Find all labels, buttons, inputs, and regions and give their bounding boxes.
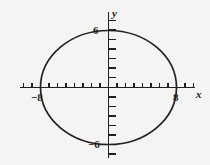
y-axis-tick-label-negative-6: −6 — [88, 139, 100, 150]
ellipse-graph-figure: −8 8 6 −6 x y — [0, 0, 210, 165]
x-axis-tick-label-negative-8: −8 — [31, 92, 43, 103]
coordinate-plane-svg — [0, 0, 210, 165]
x-axis-tick-label-positive-8: 8 — [173, 92, 179, 103]
x-axis-name-label: x — [196, 89, 202, 100]
y-axis-tick-label-positive-6: 6 — [93, 25, 99, 36]
y-axis-name-label: y — [112, 8, 117, 19]
